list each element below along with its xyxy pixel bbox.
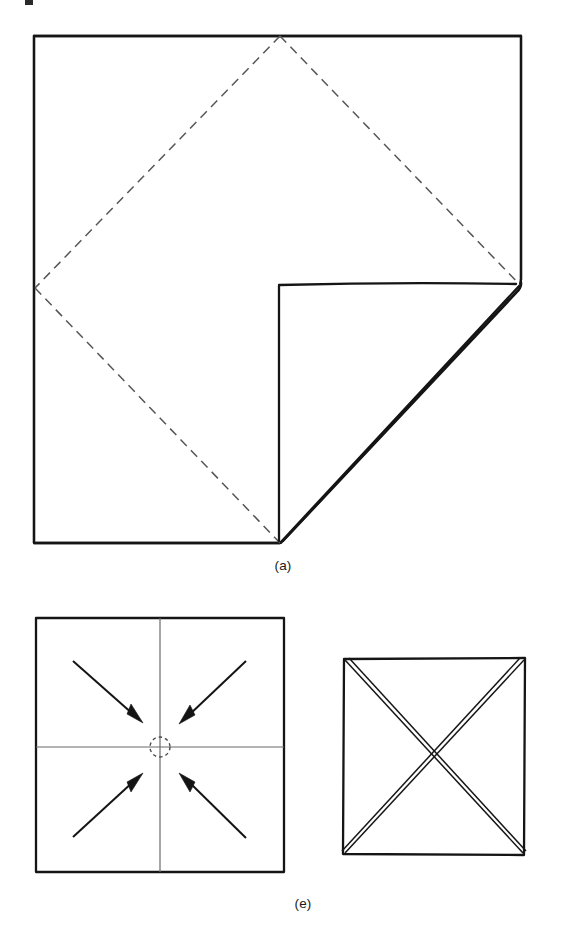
- figure-root: (a): [0, 0, 565, 938]
- figure-background: [0, 0, 565, 938]
- page-scan-artifact: [25, 0, 33, 5]
- panel-a-caption: (a): [274, 558, 291, 573]
- panel-e-caption: (e): [294, 896, 311, 911]
- napkin-folding-figure: (a): [0, 0, 565, 938]
